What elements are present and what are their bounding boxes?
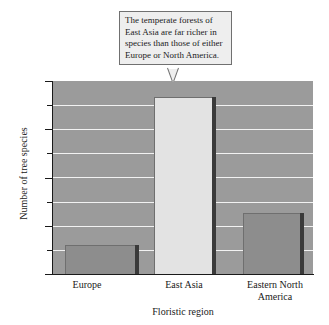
y-tick-mark-300 xyxy=(47,202,53,203)
x-category-label-east-asia-line1: East Asia xyxy=(142,279,226,291)
bar-east-asia-shadow xyxy=(212,97,216,274)
annotation-callout: The temperate forests of East Asia are f… xyxy=(119,11,232,65)
bar-eastern-north-america-face xyxy=(243,213,300,274)
annotation-callout-line1: The temperate forests of xyxy=(125,15,226,27)
x-axis-title: Floristic region xyxy=(53,306,313,317)
y-axis-title: Number of tree species xyxy=(18,94,29,254)
x-category-label-east-asia: East Asia xyxy=(142,279,226,291)
bar-eastern-north-america xyxy=(243,213,304,274)
x-category-label-ena-line1: Eastern North xyxy=(230,279,320,291)
y-tick-mark-100 xyxy=(47,250,53,251)
x-category-label-europe: Europe xyxy=(45,279,129,291)
x-category-label-eastern-north-america: Eastern North America xyxy=(230,279,320,303)
bar-east-asia-face xyxy=(154,97,212,274)
y-tick-mark-700 xyxy=(47,105,53,106)
y-tick-mark-600 xyxy=(45,129,53,130)
bar-europe-face xyxy=(65,245,135,274)
annotation-callout-line4: Europe or North America. xyxy=(125,50,226,62)
x-category-label-ena-line2: America xyxy=(230,291,320,303)
bar-eastern-north-america-shadow xyxy=(300,213,304,274)
plot-area xyxy=(53,81,313,274)
x-axis-line xyxy=(52,274,314,275)
y-tick-mark-400 xyxy=(45,178,53,179)
y-tick-mark-200 xyxy=(45,226,53,227)
bar-east-asia xyxy=(154,97,216,274)
annotation-callout-line2: East Asia are far richer in xyxy=(125,27,226,39)
bar-chart-figure: 800 600 400 200 0 Number of tree species… xyxy=(0,0,329,325)
annotation-callout-line3: species than those of either xyxy=(125,38,226,50)
y-tick-mark-500 xyxy=(47,153,53,154)
y-tick-mark-0 xyxy=(45,274,53,275)
bar-europe-shadow xyxy=(135,245,139,274)
bar-europe xyxy=(65,245,139,274)
x-category-label-europe-line1: Europe xyxy=(45,279,129,291)
y-tick-mark-800 xyxy=(45,81,53,82)
